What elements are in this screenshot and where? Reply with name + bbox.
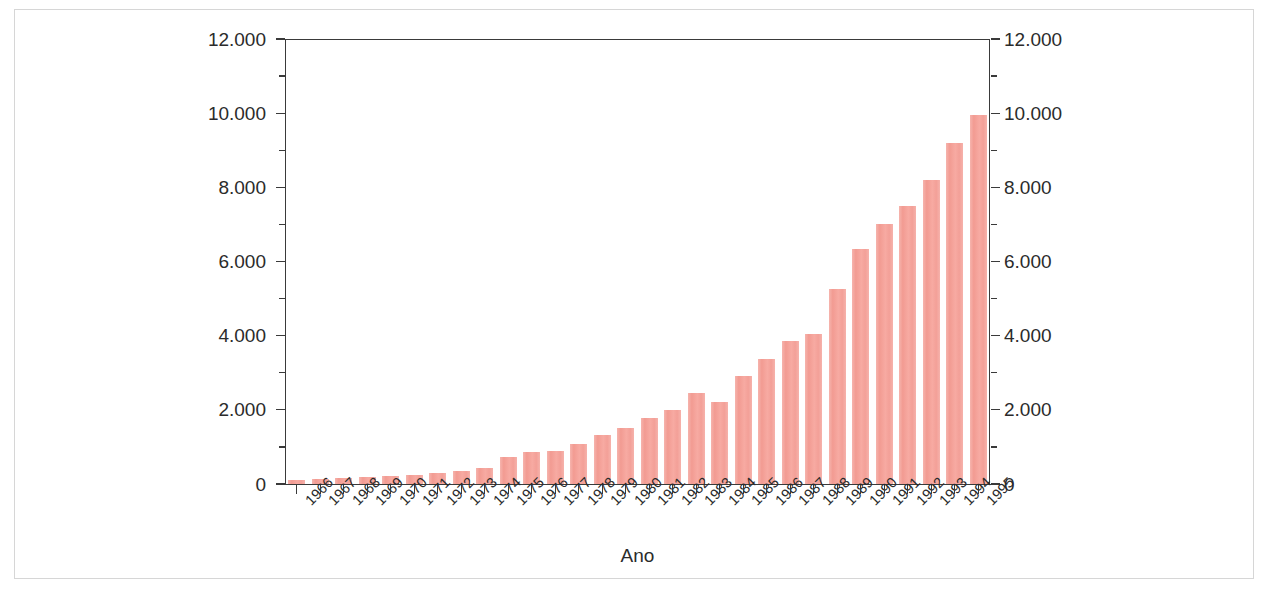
y-tick-right-1000 (991, 446, 997, 447)
bar-1989 (829, 289, 846, 484)
y-tick-left-4000 (276, 335, 285, 336)
bar-1981 (641, 418, 658, 484)
x-tick-1976 (531, 485, 532, 494)
y-tick-left-2000 (276, 409, 285, 410)
x-tick-1975 (508, 485, 509, 494)
bar-1983 (688, 393, 705, 484)
x-tick-1987 (790, 485, 791, 494)
y-tick-label-left-10000: 10.000 (208, 104, 266, 123)
bar-1966 (288, 480, 305, 484)
x-tick-1981 (649, 485, 650, 494)
x-tick-1978 (578, 485, 579, 494)
x-tick-1985 (743, 485, 744, 494)
bar-1985 (735, 376, 752, 484)
bar-1990 (852, 249, 869, 484)
y-tick-right-9000 (991, 150, 997, 151)
bar-1984 (711, 402, 728, 484)
bar-1982 (664, 410, 681, 484)
x-tick-1986 (766, 485, 767, 494)
y-tick-label-right-12000: 12.000 (1004, 30, 1062, 49)
y-tick-right-8000 (991, 187, 1000, 188)
bar-1988 (805, 334, 822, 484)
x-tick-1968 (343, 485, 344, 494)
y-tick-left-6000 (276, 261, 285, 262)
x-tick-1995 (978, 485, 979, 494)
x-tick-1972 (437, 485, 438, 494)
bar-1986 (758, 359, 775, 484)
y-tick-right-2000 (991, 409, 1000, 410)
y-tick-label-left-8000: 8.000 (218, 178, 266, 197)
x-tick-1980 (625, 485, 626, 494)
y-tick-right-4000 (991, 335, 1000, 336)
bar-1995 (970, 115, 987, 484)
y-tick-left-8000 (276, 187, 285, 188)
y-tick-right-10000 (991, 113, 1000, 114)
y-tick-right-7000 (991, 224, 997, 225)
x-tick-1992 (907, 485, 908, 494)
x-axis-title: Ano (285, 545, 990, 567)
x-tick-1974 (484, 485, 485, 494)
y-tick-label-left-0: 0 (255, 475, 266, 494)
bar-1994 (946, 143, 963, 484)
x-tick-1967 (320, 485, 321, 494)
bar-series (285, 39, 990, 484)
x-tick-1971 (414, 485, 415, 494)
x-tick-1969 (367, 485, 368, 494)
y-tick-right-6000 (991, 261, 1000, 262)
bar-1993 (923, 180, 940, 484)
y-tick-left-12000 (276, 38, 285, 39)
y-tick-right-3000 (991, 372, 997, 373)
x-tick-1977 (555, 485, 556, 494)
x-tick-1984 (719, 485, 720, 494)
x-tick-1993 (931, 485, 932, 494)
y-tick-label-right-4000: 4.000 (1004, 326, 1052, 345)
y-tick-label-right-2000: 2.000 (1004, 400, 1052, 419)
y-tick-right-12000 (991, 38, 1000, 39)
x-tick-1970 (390, 485, 391, 494)
x-tick-1973 (461, 485, 462, 494)
x-tick-1989 (837, 485, 838, 494)
y-tick-label-right-8000: 8.000 (1004, 178, 1052, 197)
y-tick-label-left-2000: 2.000 (218, 400, 266, 419)
x-tick-1983 (696, 485, 697, 494)
y-tick-label-left-4000: 4.000 (218, 326, 266, 345)
x-tick-1994 (954, 485, 955, 494)
bar-1992 (899, 206, 916, 484)
y-tick-right-5000 (991, 298, 997, 299)
y-tick-label-right-6000: 6.000 (1004, 252, 1052, 271)
y-tick-right-11000 (991, 75, 997, 76)
bar-1991 (876, 224, 893, 484)
bar-1987 (782, 341, 799, 484)
x-tick-1979 (602, 485, 603, 494)
chart-figure: 002.0002.0004.0004.0006.0006.0008.0008.0… (0, 0, 1268, 590)
y-tick-label-left-12000: 12.000 (208, 30, 266, 49)
x-tick-1991 (884, 485, 885, 494)
y-tick-left-0 (276, 483, 285, 484)
y-tick-label-left-6000: 6.000 (218, 252, 266, 271)
x-tick-1988 (813, 485, 814, 494)
y-tick-left-10000 (276, 113, 285, 114)
x-tick-1982 (672, 485, 673, 494)
y-tick-label-right-10000: 10.000 (1004, 104, 1062, 123)
x-tick-1990 (860, 485, 861, 494)
x-tick-1966 (296, 485, 297, 494)
